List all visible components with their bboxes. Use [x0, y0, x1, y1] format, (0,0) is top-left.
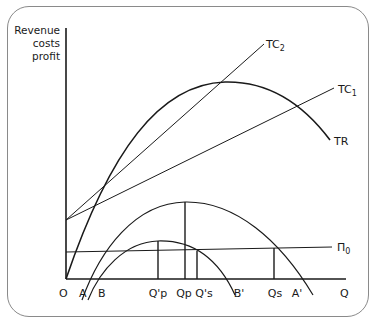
x-label-qpp: Q'p	[149, 287, 168, 300]
tc2-label: TC2	[265, 38, 285, 53]
x-axis-label-q: Q	[340, 287, 349, 300]
y-axis-label-costs: costs	[33, 37, 60, 49]
x-label-qps: Q's	[195, 287, 213, 300]
x-label-bp: B'	[234, 287, 245, 300]
tr-label: TR	[333, 135, 349, 148]
pi0-label: Π0	[337, 241, 350, 256]
y-axis-label-revenue: Revenue	[14, 24, 60, 36]
y-axis-label-profit: profit	[32, 50, 60, 62]
tc1-label: TC1	[337, 83, 357, 98]
x-label-qp: Qp	[176, 287, 192, 300]
x-label-ap: A'	[292, 287, 303, 300]
profit-revenue-diagram: Revenue costs profit TC2 TC1 TR Π0 O A B…	[0, 0, 379, 327]
x-label-qs: Qs	[268, 287, 283, 300]
tc1-line	[66, 88, 334, 220]
origin-label: O	[59, 287, 68, 300]
x-label-b: B	[98, 287, 106, 300]
tc2-line	[66, 44, 264, 220]
x-label-a: A	[79, 287, 87, 300]
